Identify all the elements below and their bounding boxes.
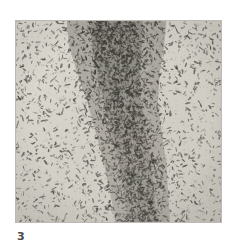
figure-container: 3 [0, 0, 236, 248]
plate-vignette [15, 20, 222, 223]
micrograph-image [15, 20, 222, 223]
micrograph-canvas [15, 20, 222, 223]
figure-number-label: 3 [17, 231, 25, 243]
